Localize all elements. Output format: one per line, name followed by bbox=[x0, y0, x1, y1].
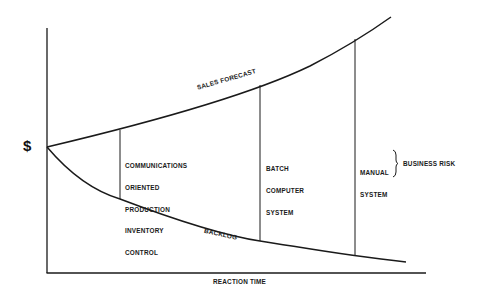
region-label-line: COMMUNICATIONS bbox=[125, 162, 187, 169]
region-label-line: INVENTORY bbox=[125, 227, 187, 234]
x-axis-label: REACTION TIME bbox=[213, 278, 266, 285]
region-manual-label: MANUAL SYSTEM bbox=[360, 155, 389, 205]
region-label-line: COMPUTER bbox=[266, 187, 304, 194]
backlog-curve bbox=[47, 147, 406, 262]
region-label-line: SYSTEM bbox=[360, 191, 389, 198]
region-label-line: CONTROL bbox=[125, 249, 187, 256]
region-communications-label: COMMUNICATIONS ORIENTED PRODUCTION INVEN… bbox=[125, 148, 187, 263]
region-label-line: ORIENTED bbox=[125, 184, 187, 191]
region-batch-label: BATCH COMPUTER SYSTEM bbox=[266, 151, 304, 223]
business-risk-label: BUSINESS RISK bbox=[403, 160, 455, 167]
region-label-line: PRODUCTION bbox=[125, 206, 187, 213]
region-label-line: MANUAL bbox=[360, 169, 389, 176]
region-label-line: BATCH bbox=[266, 165, 304, 172]
diagram-canvas bbox=[0, 0, 480, 297]
y-axis-label: $ bbox=[23, 137, 31, 154]
region-label-line: SYSTEM bbox=[266, 209, 304, 216]
business-risk-bracket bbox=[393, 150, 398, 177]
